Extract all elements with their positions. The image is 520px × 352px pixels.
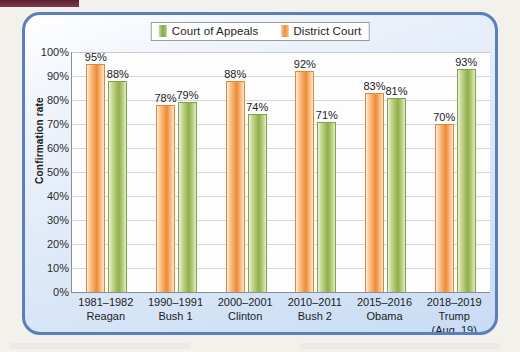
x-label-bush-2: 2010–2011 Bush 2: [280, 295, 350, 335]
x-label-name-trump: Trump: [419, 309, 489, 323]
bar-label-district-court-trump: 70%: [433, 111, 455, 123]
x-label-name-bush-1: Bush 1: [141, 309, 211, 323]
y-tick-0: 0%: [53, 286, 69, 298]
bar-label-court-of-appeals-obama: 81%: [386, 85, 408, 97]
bar-district-court-bush-2[interactable]: 92%: [295, 71, 314, 292]
bar-label-district-court-clinton: 88%: [224, 68, 246, 80]
bar-label-district-court-bush-2: 92%: [294, 58, 316, 70]
bar-court-of-appeals-trump[interactable]: 93%: [457, 69, 476, 292]
bar-district-court-clinton[interactable]: 88%: [226, 81, 245, 292]
bar-district-court-obama[interactable]: 83%: [365, 93, 384, 292]
bar-district-court-reagan[interactable]: 95%: [86, 64, 105, 292]
x-label-name-clinton: Clinton: [210, 309, 280, 323]
x-label-name-reagan: Reagan: [71, 309, 141, 323]
bar-group-bush-1: 78% 79%: [142, 52, 212, 292]
x-label-name-bush-2: Bush 2: [280, 309, 350, 323]
y-tick-10: 10%: [47, 262, 69, 274]
legend-entry-court-of-appeals: Court of Appeals: [159, 25, 259, 37]
bar-label-court-of-appeals-reagan: 88%: [107, 68, 129, 80]
bar-court-of-appeals-obama[interactable]: 81%: [387, 98, 406, 292]
bar-label-district-court-obama: 83%: [364, 80, 386, 92]
y-tick-60: 60%: [47, 142, 69, 154]
bar-label-district-court-bush-1: 78%: [154, 92, 176, 104]
bar-group-bush-2: 92% 71%: [281, 52, 351, 292]
bar-group-obama: 83% 81%: [351, 52, 421, 292]
legend-swatch-orange-icon: [280, 25, 288, 37]
page-highlight-marker: [0, 0, 79, 7]
x-label-reagan: 1981–1982 Reagan: [71, 295, 141, 335]
background-ghost-text: [300, 343, 500, 349]
bar-district-court-bush-1[interactable]: 78%: [156, 105, 175, 292]
legend-entry-district-court: District Court: [280, 25, 361, 37]
y-tick-70: 70%: [47, 118, 69, 130]
bar-court-of-appeals-bush-2[interactable]: 71%: [317, 122, 336, 292]
x-label-name-obama: Obama: [350, 309, 420, 323]
bar-court-of-appeals-bush-1[interactable]: 79%: [178, 102, 197, 292]
y-tick-40: 40%: [47, 190, 69, 202]
bar-label-court-of-appeals-bush-1: 79%: [176, 89, 198, 101]
bar-group-reagan: 95% 88%: [72, 52, 142, 292]
x-label-period-trump: 2018–2019: [419, 295, 489, 309]
bar-district-court-trump[interactable]: 70%: [435, 124, 454, 292]
x-label-period-bush-2: 2010–2011: [280, 295, 350, 309]
x-label-note-trump: (Aug. 19): [419, 323, 489, 335]
bar-groups: 95% 88% 78% 79% 88%: [72, 52, 490, 292]
bar-court-of-appeals-clinton[interactable]: 74%: [248, 114, 267, 292]
y-tick-50: 50%: [47, 166, 69, 178]
y-axis-tick-labels: 100% 90% 80% 70% 60% 50% 40% 30% 20% 10%…: [27, 52, 69, 292]
background-ghost-text: [10, 343, 190, 349]
y-tick-100: 100%: [41, 46, 69, 58]
x-label-period-clinton: 2000–2001: [210, 295, 280, 309]
chart-figure-frame: Court of Appeals District Court Confirma…: [22, 12, 498, 335]
x-label-clinton: 2000–2001 Clinton: [210, 295, 280, 335]
bar-group-clinton: 88% 74%: [211, 52, 281, 292]
y-tick-80: 80%: [47, 94, 69, 106]
plot-wrapper: 100% 90% 80% 70% 60% 50% 40% 30% 20% 10%…: [25, 45, 495, 335]
bar-court-of-appeals-reagan[interactable]: 88%: [108, 81, 127, 292]
y-tick-30: 30%: [47, 214, 69, 226]
bar-label-district-court-reagan: 95%: [85, 51, 107, 63]
x-label-obama: 2015–2016 Obama: [350, 295, 420, 335]
bar-label-court-of-appeals-bush-2: 71%: [316, 109, 338, 121]
legend-swatch-green-icon: [159, 25, 167, 37]
x-label-period-obama: 2015–2016: [350, 295, 420, 309]
bar-label-court-of-appeals-clinton: 74%: [246, 101, 268, 113]
chart-legend: Court of Appeals District Court: [151, 22, 370, 41]
legend-label-court-of-appeals: Court of Appeals: [172, 25, 259, 37]
bar-label-court-of-appeals-trump: 93%: [455, 56, 477, 68]
legend-label-district-court: District Court: [293, 25, 361, 37]
y-tick-90: 90%: [47, 70, 69, 82]
x-label-period-reagan: 1981–1982: [71, 295, 141, 309]
x-label-trump: 2018–2019 Trump (Aug. 19): [419, 295, 489, 335]
x-axis-category-labels: 1981–1982 Reagan 1990–1991 Bush 1 2000–2…: [71, 295, 489, 335]
y-tick-20: 20%: [47, 238, 69, 250]
bar-group-trump: 70% 93%: [420, 52, 490, 292]
plot-area: 95% 88% 78% 79% 88%: [71, 52, 490, 293]
x-label-bush-1: 1990–1991 Bush 1: [141, 295, 211, 335]
x-label-period-bush-1: 1990–1991: [141, 295, 211, 309]
